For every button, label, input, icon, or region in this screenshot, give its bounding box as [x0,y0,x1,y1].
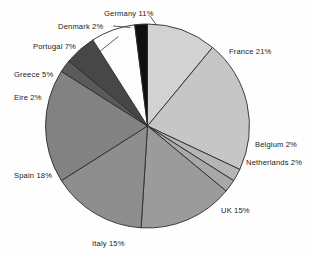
pie-chart-figure: Germany 11% Denmark 2% Portugal 7% Greec… [0,0,309,256]
pie-label-eire: Eire 2% [14,93,42,102]
pie-chart-canvas [0,0,309,256]
pie-label-spain: Spain 18% [14,171,52,180]
pie-label-belgium: Belgium 2% [255,140,297,149]
pie-label-uk: UK 15% [221,206,250,215]
pie-label-germany: Germany 11% [104,9,154,18]
pie-label-portugal: Portugal 7% [33,42,76,51]
pie-label-greece: Greece 5% [14,70,53,79]
pie-label-france: France 21% [229,47,271,56]
pie-label-italy: Italy 15% [92,239,125,248]
pie-label-denmark: Denmark 2% [58,22,103,31]
pie-slices-group [46,24,250,228]
pie-label-netherlands: Netherlands 2% [246,158,302,167]
